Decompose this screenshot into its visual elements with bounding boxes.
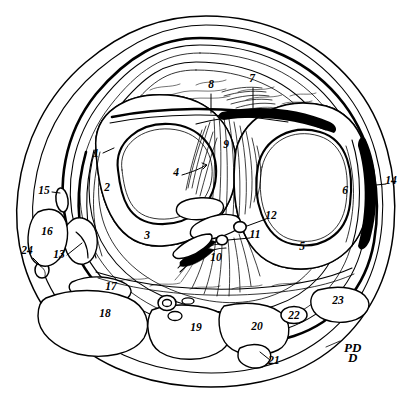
label-22: 22 xyxy=(287,309,300,321)
label-20: 20 xyxy=(250,320,263,332)
label-14: 14 xyxy=(385,174,397,186)
label-24: 24 xyxy=(20,244,33,256)
label-17: 17 xyxy=(105,280,118,292)
label-19: 19 xyxy=(190,321,202,333)
label-8: 8 xyxy=(208,78,214,90)
label-12: 12 xyxy=(265,209,277,221)
label-5: 5 xyxy=(299,240,305,252)
label-3: 3 xyxy=(143,229,150,241)
label-4: 4 xyxy=(172,166,179,178)
label-2: 2 xyxy=(103,181,110,193)
label-6: 6 xyxy=(342,184,348,196)
label-13: 13 xyxy=(53,248,65,260)
label-15: 15 xyxy=(38,184,50,196)
cross-section-illustration: 1 2 3 4 5 6 7 8 9 10 11 12 13 14 15 16 1… xyxy=(0,0,413,397)
label-18: 18 xyxy=(99,307,111,319)
label-16: 16 xyxy=(41,225,53,237)
label-23: 23 xyxy=(331,294,344,306)
label-21: 21 xyxy=(267,354,280,366)
label-10: 10 xyxy=(210,251,222,263)
signature-mark-lower: D xyxy=(347,350,358,365)
anatomical-figure: 1 2 3 4 5 6 7 8 9 10 11 12 13 14 15 16 1… xyxy=(0,0,413,397)
label-9: 9 xyxy=(223,138,229,150)
label-11: 11 xyxy=(250,228,261,240)
label-1: 1 xyxy=(93,147,99,159)
